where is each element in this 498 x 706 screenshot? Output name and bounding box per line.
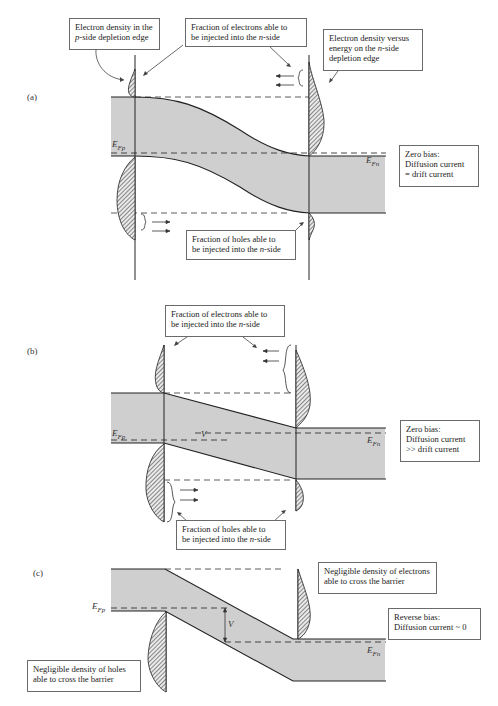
annotation-electron-fraction-b: Fraction of electrons able to be injecte… (165, 305, 285, 337)
electron-density-n-b (296, 350, 310, 428)
panel-label-a: (a) (27, 92, 37, 102)
annotation-hole-negligible: Negligible density of holes able to cros… (27, 660, 141, 692)
brace-holes-b (167, 482, 175, 522)
electron-density-p-b (155, 345, 164, 393)
brace-electrons-a (298, 70, 303, 86)
fermi-label-p-b: EFp (112, 428, 125, 441)
annotation-hole-fraction-a: Fraction of holes able to be injected in… (186, 230, 296, 260)
electron-density-n-a (309, 62, 324, 156)
hole-density-n-a (309, 213, 314, 240)
arrows-electrons-a (276, 75, 294, 87)
arrows-holes-a (152, 221, 170, 233)
arrows-electrons-b (263, 350, 279, 363)
brace-holes-a (141, 214, 146, 230)
bias-state-b: Zero bias: Diffusion current >> drift cu… (400, 420, 480, 462)
annotation-electron-negligible: Negligible density of electrons able to … (318, 562, 437, 594)
band-diagram (0, 0, 498, 706)
hole-density-p-c (148, 612, 166, 692)
panel-label-c: (c) (33, 568, 43, 578)
electron-density-n-c (298, 569, 310, 639)
annotation-n-side-density: Electron density versus energy on the n-… (323, 29, 423, 71)
fermi-label-n-b: EFn (367, 435, 380, 448)
annotation-electron-fraction-a: Fraction of electrons able to be injecte… (185, 18, 307, 47)
voltage-label-c: V (228, 619, 234, 629)
panel-b (111, 337, 386, 522)
hole-density-p-b (146, 444, 164, 522)
bias-state-c: Reverse bias: Diffusion current ~ 0 (388, 608, 481, 640)
voltage-label-b: V (201, 429, 207, 439)
arrows-holes-b (180, 489, 198, 502)
fermi-label-n-c: EFn (367, 645, 380, 658)
hole-density-n-b (296, 480, 303, 511)
band-fill-a (111, 97, 385, 213)
annotation-p-side-electron-density: Electron density in the p-side depletion… (69, 18, 160, 50)
hole-density-p-a (117, 157, 135, 240)
panel-label-b: (b) (27, 346, 38, 356)
electron-density-p-a (128, 69, 135, 97)
brace-electrons-b (283, 345, 291, 393)
fermi-label-p-a: EFp (112, 139, 125, 152)
bias-state-a: Zero bias: Diffusion current = drift cur… (399, 145, 479, 187)
fermi-label-n-a: EFn (366, 155, 379, 168)
annotation-hole-fraction-b: Fraction of holes able to be injected in… (176, 520, 286, 550)
fermi-label-p-c: EFp (92, 601, 105, 614)
